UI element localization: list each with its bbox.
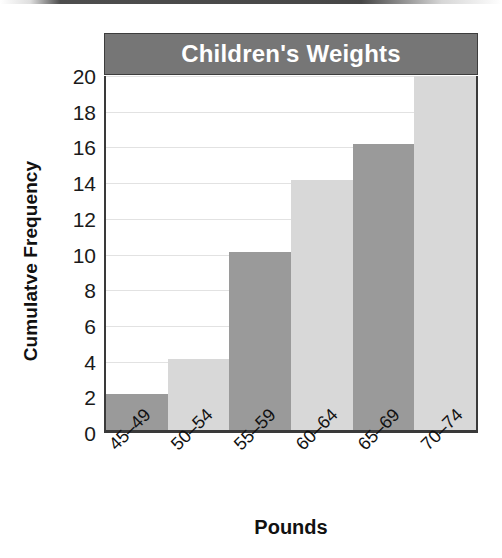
y-axis-tick-2: 2 [84, 387, 96, 408]
plot-inner [106, 76, 476, 430]
x-axis-tick-cell-1: 50–54 [166, 436, 228, 506]
y-axis-tick-labels: 20181614121086420 [48, 76, 100, 433]
plot-area [104, 76, 478, 433]
y-axis-tick-10: 10 [73, 244, 96, 265]
chart-title: Children's Weights [181, 40, 401, 68]
bar-70–74 [414, 76, 476, 430]
y-axis-tick-12: 12 [73, 208, 96, 229]
y-axis-tick-20: 20 [73, 66, 96, 87]
y-axis-tick-6: 6 [84, 315, 96, 336]
y-axis-tick-16: 16 [73, 137, 96, 158]
x-axis-tick-cell-4: 65–69 [353, 436, 415, 506]
y-axis-title: Cumulatve Frequency [20, 141, 42, 381]
x-axis-tick-cell-3: 60–64 [291, 436, 353, 506]
x-axis-tick-labels: 45–4950–5455–5960–6465–6970–74 [104, 436, 478, 506]
chart-title-bar: Children's Weights [104, 33, 478, 75]
x-axis-title: Pounds [104, 516, 478, 539]
y-axis-tick-0: 0 [84, 423, 96, 444]
cumulative-frequency-bar-chart: Children's Weights 20181614121086420 Cum… [0, 0, 502, 558]
y-axis-tick-14: 14 [73, 173, 96, 194]
bar-60–64 [291, 180, 353, 430]
y-axis-tick-8: 8 [84, 280, 96, 301]
x-axis-tick-cell-0: 45–49 [104, 436, 166, 506]
y-axis-tick-4: 4 [84, 351, 96, 372]
x-axis-tick-cell-2: 55–59 [229, 436, 291, 506]
bar-65–69 [353, 144, 415, 430]
bar-55–59 [229, 252, 291, 431]
bars-layer [106, 76, 476, 430]
y-axis-tick-18: 18 [73, 101, 96, 122]
x-axis-tick-cell-5: 70–74 [416, 436, 478, 506]
